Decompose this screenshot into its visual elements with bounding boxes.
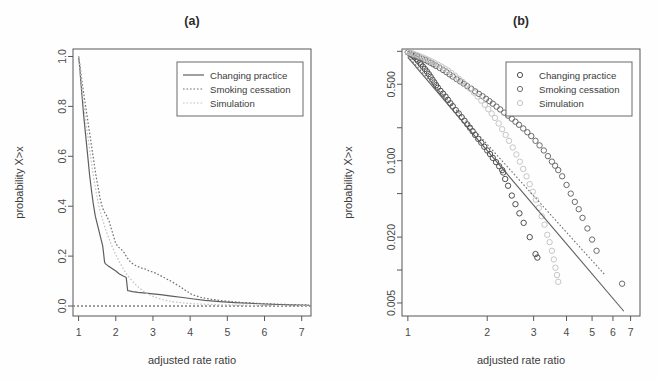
data-point (559, 174, 564, 179)
data-point (545, 232, 550, 237)
x-axis: 1234567adjusted rate ratio (76, 316, 305, 366)
data-point (533, 197, 538, 202)
x-tick-label: 4 (564, 326, 570, 338)
data-point (556, 279, 561, 284)
x-tick-label: 1 (76, 326, 82, 338)
data-point (541, 148, 546, 153)
y-axis-label: probability X>x (13, 146, 25, 219)
legend-label: Smoking cessation (210, 84, 291, 95)
data-point (554, 272, 559, 277)
x-tick-label: 3 (150, 326, 156, 338)
legend-label: Simulation (210, 98, 255, 109)
x-tick-label: 7 (628, 326, 634, 338)
data-point (564, 182, 569, 187)
legend-label: Changing practice (539, 70, 616, 81)
data-point (576, 207, 581, 212)
x-tick-label: 6 (610, 326, 616, 338)
y-tick-label: 0.8 (56, 99, 68, 114)
data-point (529, 133, 534, 138)
x-tick-label: 2 (113, 326, 119, 338)
data-point (556, 167, 561, 172)
data-point (594, 248, 599, 253)
panel-a: (a)1234567adjusted rate ratio0.00.20.40.… (0, 0, 329, 381)
y-tick-label: 0.500 (385, 71, 397, 97)
data-point (500, 127, 505, 132)
data-point (496, 121, 501, 126)
data-point (503, 132, 508, 137)
x-tick-label: 6 (262, 326, 268, 338)
panel-b-svg: (b)1234567adjusted rate ratio0.0050.0200… (329, 0, 658, 381)
data-point (514, 152, 519, 157)
data-point (513, 202, 518, 207)
data-point (506, 138, 511, 143)
data-point (547, 239, 552, 244)
x-tick-label: 4 (187, 326, 193, 338)
data-point (524, 174, 529, 179)
panel-b: (b)1234567adjusted rate ratio0.0050.0200… (329, 0, 658, 381)
x-tick-label: 5 (589, 326, 595, 338)
data-point (533, 138, 538, 143)
y-tick-label: 0.4 (56, 199, 68, 214)
data-point (549, 248, 554, 253)
figure-container: (a)1234567adjusted rate ratio0.00.20.40.… (0, 0, 658, 381)
data-point (589, 237, 594, 242)
data-point (542, 222, 547, 227)
legend-label: Smoking cessation (539, 84, 620, 95)
y-axis: 0.0050.0200.1000.500probability X>x (342, 51, 402, 316)
data-point (521, 220, 526, 225)
data-point (537, 143, 542, 148)
data-point (505, 183, 510, 188)
legend: Changing practiceSmoking cessationSimula… (177, 62, 303, 116)
data-point (509, 193, 514, 198)
data-point (492, 115, 497, 120)
data-point (568, 191, 573, 196)
x-axis: 1234567adjusted rate ratio (405, 316, 634, 366)
x-tick-label: 5 (224, 326, 230, 338)
y-axis: 0.00.20.40.60.81.0probability X>x (13, 49, 73, 313)
y-tick-label: 0.020 (385, 224, 397, 250)
legend-label: Changing practice (210, 70, 287, 81)
data-point (619, 281, 624, 286)
data-point (521, 166, 526, 171)
x-tick-label: 1 (405, 326, 411, 338)
x-tick-label: 2 (484, 326, 490, 338)
data-point (585, 226, 590, 231)
y-tick-label: 0.005 (385, 290, 397, 316)
data-point (517, 159, 522, 164)
y-tick-label: 1.0 (56, 49, 68, 64)
panel-title: (b) (513, 14, 529, 28)
x-axis-label: adjusted rate ratio (148, 354, 236, 366)
legend-label: Simulation (539, 98, 584, 109)
data-point (527, 234, 532, 239)
data-point (494, 104, 499, 109)
data-point (509, 116, 514, 121)
data-point (513, 119, 518, 124)
x-tick-label: 3 (531, 326, 537, 338)
data-point (572, 199, 577, 204)
legend: Changing practiceSmoking cessationSimula… (506, 62, 632, 116)
y-tick-label: 0.0 (56, 299, 68, 314)
x-axis-label: adjusted rate ratio (477, 354, 565, 366)
data-point (527, 181, 532, 186)
data-point (553, 265, 558, 270)
y-tick-label: 0.6 (56, 149, 68, 164)
panel-a-svg: (a)1234567adjusted rate ratio0.00.20.40.… (0, 0, 329, 381)
data-point (580, 215, 585, 220)
data-point (545, 153, 550, 158)
y-axis-label: probability X>x (342, 146, 354, 219)
y-tick-label: 0.100 (385, 147, 397, 173)
data-point (551, 257, 556, 262)
x-tick-label: 7 (299, 326, 305, 338)
data-point (517, 211, 522, 216)
data-point (510, 145, 515, 150)
data-point (502, 176, 507, 181)
y-tick-label: 0.2 (56, 249, 68, 264)
panel-title: (a) (184, 14, 199, 28)
